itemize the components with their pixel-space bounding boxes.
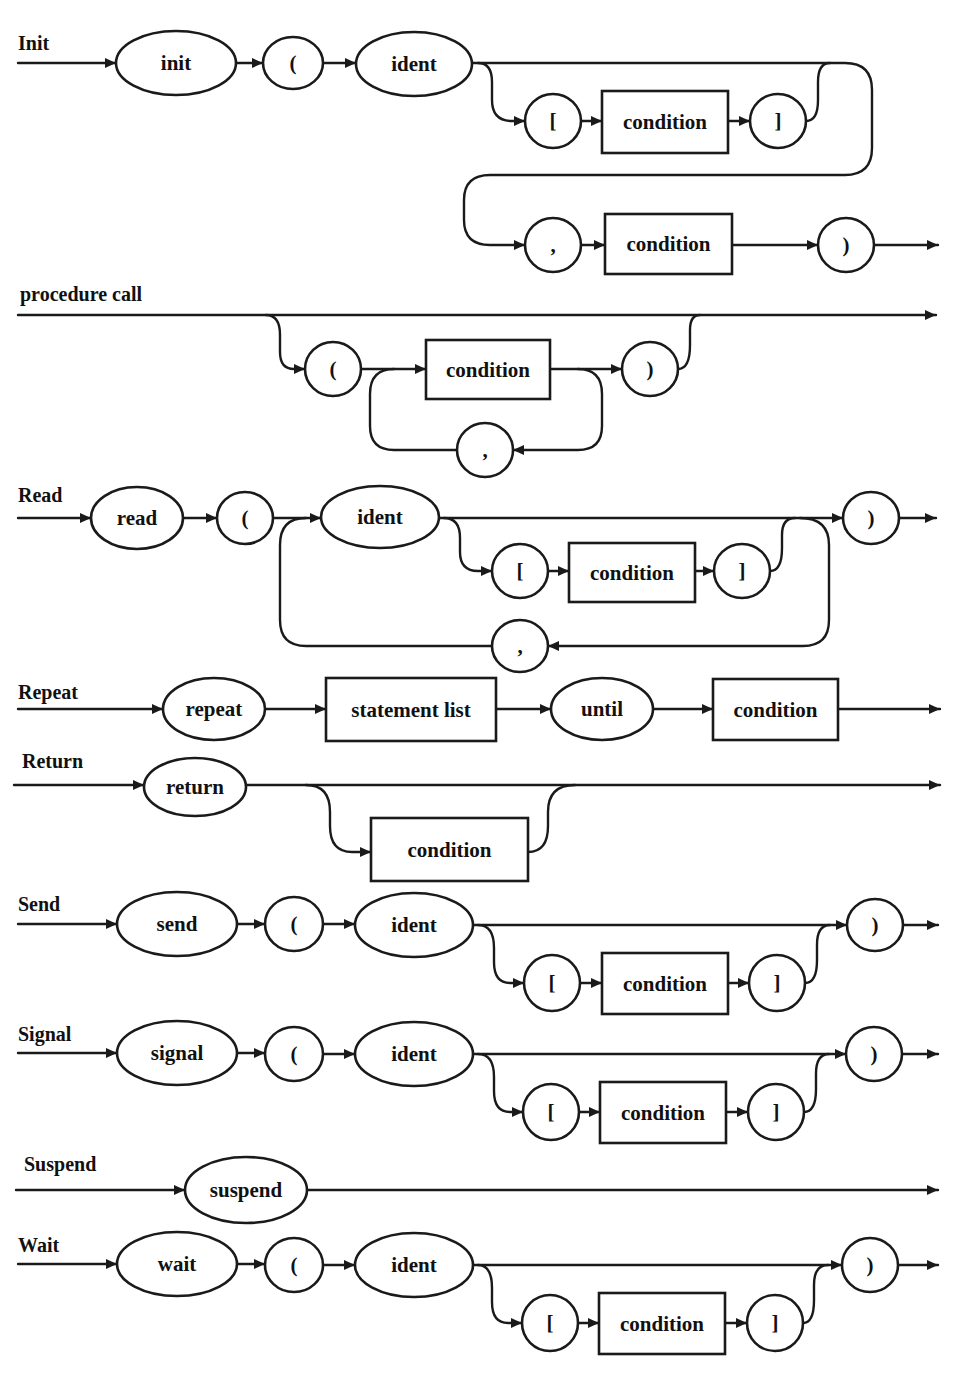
node-label: wait — [158, 1252, 197, 1276]
arrow-head-icon — [927, 920, 938, 930]
terminal-until: until — [551, 678, 653, 740]
arrow-head-icon — [589, 1107, 600, 1117]
node-label: ] — [739, 559, 746, 583]
arrow-head-icon — [254, 919, 265, 929]
terminal-close-paren: ) — [846, 1027, 902, 1081]
terminal-open-paren: ( — [263, 37, 323, 89]
connector-init — [806, 63, 830, 121]
node-label: ) — [647, 357, 654, 381]
node-label: ) — [871, 1042, 878, 1066]
terminal-close-paren: ) — [842, 1238, 898, 1292]
arrow-head-icon — [836, 920, 847, 930]
node-label: return — [166, 775, 224, 799]
node-label: suspend — [210, 1178, 283, 1202]
arrow-head-icon — [344, 919, 355, 929]
arrow-head-icon — [925, 310, 936, 320]
connector-send — [478, 925, 524, 983]
arrow-head-icon — [511, 1318, 522, 1328]
arrow-head-icon — [835, 1049, 846, 1059]
connector-read — [444, 518, 492, 571]
syntax-diagram: Syntax diagrams for statements init(iden… — [0, 0, 958, 1373]
arrow-head-icon — [310, 513, 321, 523]
node-label: , — [517, 634, 522, 658]
node-label: condition — [407, 838, 491, 862]
arrow-head-icon — [252, 58, 263, 68]
node-label: until — [581, 697, 623, 721]
node-label: send — [157, 912, 198, 936]
arrow-head-icon — [703, 566, 714, 576]
terminal-open-bracket: [ — [524, 955, 580, 1011]
arrow-head-icon — [927, 240, 938, 250]
node-label: condition — [623, 972, 707, 996]
arrow-head-icon — [315, 704, 326, 714]
arrow-head-icon — [415, 364, 426, 374]
arrow-head-icon — [360, 847, 371, 857]
node-label: ] — [772, 1311, 779, 1335]
arrow-head-icon — [548, 641, 559, 651]
arrow-head-icon — [929, 704, 940, 714]
arrow-head-icon — [831, 1260, 842, 1270]
connector-signal — [804, 1054, 829, 1112]
arrow-head-icon — [591, 978, 602, 988]
terminal-comma: , — [457, 423, 513, 477]
terminal-open-bracket: [ — [522, 1295, 578, 1351]
node-label: ident — [391, 52, 437, 76]
connector-procedure-call — [266, 315, 305, 369]
arrow-head-icon — [481, 566, 492, 576]
arrow-head-icon — [133, 780, 144, 790]
node-label: ) — [867, 1253, 874, 1277]
node-label: ident — [391, 1253, 437, 1277]
arrow-head-icon — [344, 1049, 355, 1059]
terminal-send: send — [117, 892, 237, 956]
terminal-wait: wait — [117, 1232, 237, 1296]
nonterminal-condition: condition — [602, 91, 728, 153]
arrow-head-icon — [807, 240, 818, 250]
terminal-return: return — [144, 758, 246, 816]
arrow-head-icon — [738, 978, 749, 988]
node-label: ident — [357, 505, 403, 529]
arrow-head-icon — [106, 919, 117, 929]
arrow-head-icon — [739, 116, 750, 126]
node-label: ident — [391, 1042, 437, 1066]
nonterminal-condition: condition — [371, 818, 528, 881]
arrow-head-icon — [594, 240, 605, 250]
nonterminal-condition: condition — [569, 543, 695, 602]
node-label: [ — [547, 1311, 554, 1335]
node-label: ( — [291, 1253, 298, 1277]
terminal-open-paren: ( — [217, 492, 273, 544]
terminal-open-paren: ( — [265, 1027, 323, 1081]
arrow-head-icon — [588, 1318, 599, 1328]
terminal-init: init — [116, 31, 236, 95]
terminal-ident: ident — [355, 893, 473, 957]
rule-title-repeat: Repeat — [18, 681, 78, 704]
rule-title-procedure-call: procedure call — [20, 283, 142, 306]
terminal-open-bracket: [ — [523, 1084, 579, 1140]
terminal-open-paren: ( — [305, 342, 361, 396]
arrow-head-icon — [512, 1107, 523, 1117]
terminal-close-paren: ) — [622, 342, 678, 396]
arrow-head-icon — [344, 1260, 355, 1270]
terminal-comma: , — [525, 218, 581, 272]
arrow-head-icon — [925, 513, 936, 523]
arrow-head-icon — [206, 513, 217, 523]
connector-read — [770, 518, 795, 571]
node-label: init — [161, 51, 191, 75]
node-label: condition — [620, 1312, 704, 1336]
arrow-head-icon — [152, 704, 163, 714]
arrow-head-icon — [513, 445, 524, 455]
rule-title-signal: Signal — [18, 1023, 72, 1046]
nonterminal-condition: condition — [605, 214, 732, 274]
node-label: , — [550, 233, 555, 257]
terminal-comma: , — [492, 620, 548, 672]
nonterminal-condition: condition — [600, 1082, 726, 1143]
node-label: condition — [626, 232, 710, 256]
node-label: [ — [517, 559, 524, 583]
terminal-close-bracket: ] — [747, 1295, 803, 1351]
arrow-head-icon — [540, 704, 551, 714]
node-label: ( — [290, 51, 297, 75]
arrow-head-icon — [105, 58, 116, 68]
arrow-head-icon — [927, 1260, 938, 1270]
node-label: ( — [291, 912, 298, 936]
arrow-head-icon — [106, 1259, 117, 1269]
rule-title-init: Init — [18, 32, 49, 54]
